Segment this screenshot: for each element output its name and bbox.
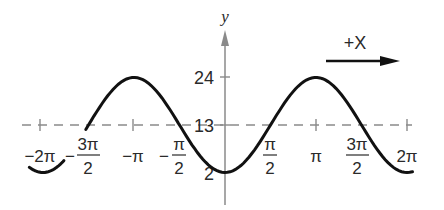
x-tick-2pi: 2π — [396, 147, 417, 166]
x-tick-neg-pi: −π — [122, 147, 144, 166]
x-tick-neg-2pi: −2π — [24, 147, 55, 166]
x-tick-neg-3pi-2-num: 3π — [77, 135, 98, 154]
x-tick-pi-2-den: 2 — [265, 159, 274, 178]
y-tick-24: 24 — [194, 68, 214, 88]
y-tick-13: 13 — [194, 116, 214, 136]
x-tick-neg-3pi-2-sign: − — [65, 147, 75, 166]
direction-label: +X — [344, 33, 367, 53]
x-tick-pi: π — [310, 147, 322, 166]
x-tick-neg-pi-2-den: 2 — [174, 159, 183, 178]
x-tick-neg-pi-2-sign: − — [159, 147, 169, 166]
x-tick-neg-pi-2-num: π — [173, 135, 185, 154]
direction-arrow-icon — [380, 56, 400, 66]
x-tick-3pi-2-den: 2 — [352, 159, 361, 178]
x-tick-pi-2-num: π — [264, 135, 276, 154]
x-tick-neg-3pi-2-den: 2 — [83, 159, 92, 178]
x-tick-3pi-2-num: 3π — [346, 135, 367, 154]
y-axis-arrow-icon — [221, 30, 229, 46]
y-axis-label: y — [219, 7, 229, 26]
sinusoid-diagram: y 24 13 2 −2π − 3π 2 −π − π 2 π 2 π 3π 2… — [0, 0, 444, 210]
